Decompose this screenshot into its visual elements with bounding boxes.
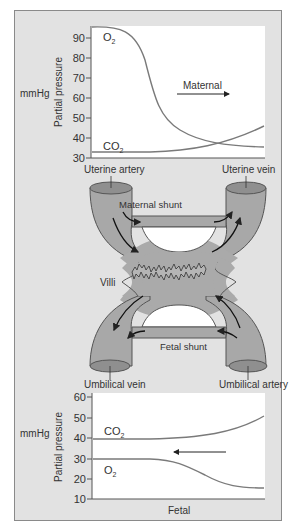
- maternal-chart: 90 80 70 60 50 40 30 mmHg Partial pressu…: [20, 26, 265, 164]
- unit-label: mmHg: [20, 88, 49, 99]
- fetal-chart: 60 50 40 30 20 10 mmHg Partial pressure …: [20, 391, 265, 516]
- tick-label: 30: [74, 453, 86, 465]
- unit-label: mmHg: [20, 428, 49, 439]
- tick-label: 70: [73, 72, 85, 84]
- y-ticks: [86, 38, 91, 158]
- tick-label: 30: [73, 152, 85, 164]
- placenta-figure: 90 80 70 60 50 40 30 mmHg Partial pressu…: [0, 0, 298, 532]
- placenta-diagram: Uterine artery Uterine vein: [84, 164, 288, 390]
- maternal-shunt: [132, 216, 226, 227]
- fetal-label: Fetal: [168, 505, 190, 516]
- maternal-plot-area: [91, 26, 265, 158]
- tick-label: 90: [73, 32, 85, 44]
- axis-label: Partial pressure: [53, 412, 64, 482]
- fetal-plot-area: [92, 393, 265, 499]
- villi-label: Villi: [100, 277, 115, 288]
- y-ticks: [87, 397, 92, 499]
- maternal-label: Maternal: [183, 80, 222, 91]
- axis-label: Partial pressure: [53, 57, 64, 127]
- tick-label: 50: [73, 112, 85, 124]
- fetal-shunt-label: Fetal shunt: [160, 341, 207, 352]
- fetal-shunt: [132, 327, 226, 338]
- y-tick-labels: 60 50 40 30 20 10: [74, 391, 86, 505]
- tick-label: 10: [74, 493, 86, 505]
- umbilical-artery-label: Umbilical artery: [219, 379, 288, 390]
- tick-label: 60: [73, 92, 85, 104]
- uterine-artery-label: Uterine artery: [84, 164, 145, 175]
- y-tick-labels: 90 80 70 60 50 40 30: [73, 32, 85, 164]
- uterine-vein-label: Uterine vein: [222, 164, 275, 175]
- tick-label: 60: [74, 391, 86, 403]
- tick-label: 20: [74, 473, 86, 485]
- tick-label: 80: [73, 52, 85, 64]
- umbilical-vein-label: Umbilical vein: [84, 379, 146, 390]
- maternal-shunt-label: Maternal shunt: [119, 199, 182, 210]
- tick-label: 50: [74, 412, 86, 424]
- tick-label: 40: [73, 132, 85, 144]
- tick-label: 40: [74, 432, 86, 444]
